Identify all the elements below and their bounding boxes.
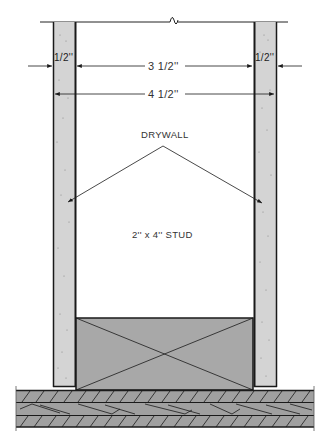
drywall-leaders: [68, 146, 262, 203]
left-drywall: [53, 22, 76, 387]
total-depth-label: 4 1/2'': [148, 88, 179, 100]
left-drywall-thickness-label: 1/2'': [54, 52, 73, 63]
stud-depth-label: 3 1/2'': [148, 60, 179, 72]
bottom-plate: [16, 386, 314, 431]
top-break-line: [40, 17, 288, 24]
drywall-label: DRYWALL: [141, 129, 189, 140]
stud-end-block: [76, 318, 253, 390]
stud-label: 2'' x 4'' STUD: [132, 229, 193, 240]
right-drywall: [254, 22, 277, 387]
right-drywall-thickness-label: 1/2'': [255, 52, 274, 63]
